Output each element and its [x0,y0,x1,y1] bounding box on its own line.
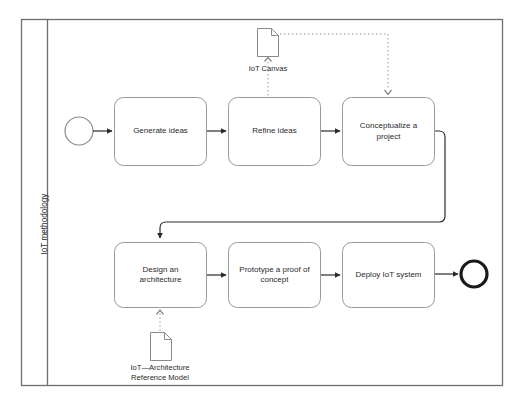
association-canvas-to-conceptualize [280,34,388,90]
task-design-an-architecture[interactable] [115,243,207,308]
lane-label-iot-methodology: IoT methodology [40,145,49,255]
data-object-iot-architecture-reference-model[interactable] [151,333,172,361]
diagram-canvas: IoT methodology Generate ideas Refine id… [0,0,523,405]
bpmn-diagram [0,0,523,405]
task-deploy-iot-system[interactable] [343,243,435,308]
association-canvas-to-conceptualize-arrowhead [385,90,392,95]
task-generate-ideas[interactable] [115,98,207,166]
task-prototype-a-proof-of-concept[interactable] [229,243,321,308]
data-object-label-iot-canvas: IoT Canvas [218,64,318,74]
association-canvas-to-refine-arrowhead [265,58,272,62]
data-object-iot-canvas[interactable] [258,29,279,57]
task-refine-ideas[interactable] [229,98,321,166]
data-object-label-iot-architecture-reference-model: IoT—Architecture Reference Model [105,363,215,382]
task-conceptualize-a-project[interactable] [343,98,435,166]
start-event[interactable] [65,117,93,145]
pool-frame [22,20,503,386]
end-event[interactable] [461,261,487,287]
